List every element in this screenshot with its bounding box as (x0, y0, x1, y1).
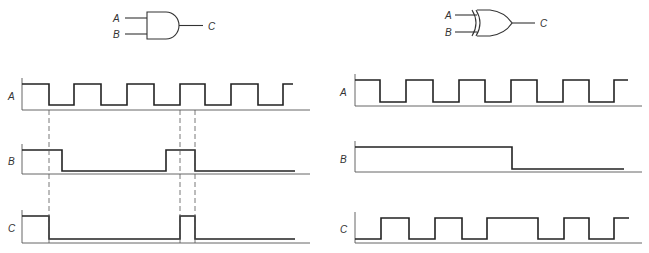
and-gate-body (147, 12, 179, 39)
left-signal-b-label: B (8, 156, 15, 167)
and-output-label: C (208, 21, 216, 32)
xor-gate: A B C (444, 10, 548, 38)
axis-b (355, 141, 642, 172)
right-signal-b-label: B (340, 154, 347, 165)
left-signal-a-label: A (7, 91, 15, 102)
left-signal-c-label: C (8, 223, 16, 234)
and-gate: A B C (112, 12, 216, 40)
and-dashed-guides (49, 110, 195, 243)
xor-gate-body (477, 10, 512, 36)
waveform-c (22, 216, 295, 239)
waveform-c (355, 218, 629, 239)
and-timing-panel (22, 78, 310, 243)
xor-timing-panel (355, 74, 642, 243)
and-input-a-label: A (112, 13, 120, 24)
xor-input-a-label: A (444, 10, 452, 21)
waveform-b (355, 147, 624, 169)
logic-timing-diagram: A B C A B C A B C A B C (0, 0, 649, 253)
xor-input-b-label: B (445, 27, 452, 38)
right-signal-a-label: A (339, 87, 347, 98)
right-signal-c-label: C (340, 224, 348, 235)
axis-c (22, 210, 310, 243)
waveform-a (355, 80, 628, 102)
waveform-a (22, 84, 293, 105)
xor-output-label: C (540, 18, 548, 29)
and-input-b-label: B (113, 29, 120, 40)
waveform-b (22, 150, 295, 171)
